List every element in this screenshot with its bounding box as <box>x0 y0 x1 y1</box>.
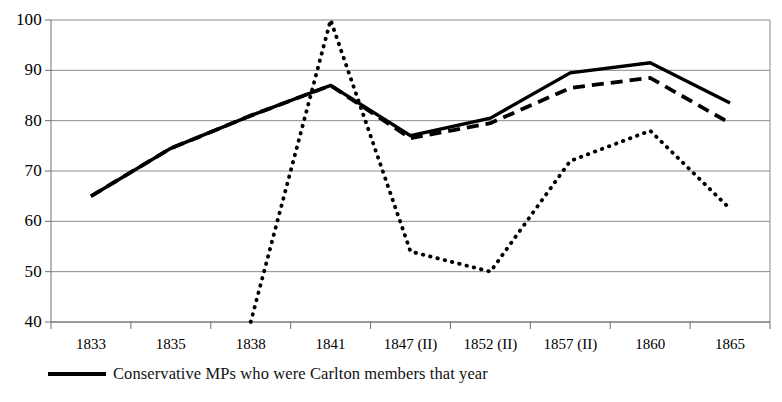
series-line-solid <box>91 63 730 196</box>
chart-container: 405060708090100 18331835183818411847 (II… <box>0 0 782 402</box>
y-axis-ticks <box>45 20 51 322</box>
y-axis-label: 40 <box>0 312 42 332</box>
y-axis-label: 80 <box>0 111 42 131</box>
x-axis-ticks <box>51 322 770 329</box>
y-axis-label: 70 <box>0 161 42 181</box>
y-axis-label: 50 <box>0 262 42 282</box>
y-axis-label: 90 <box>0 60 42 80</box>
gridlines <box>51 20 770 322</box>
chart-legend: Conservative MPs who were Carlton member… <box>48 364 488 384</box>
y-axis-label: 60 <box>0 211 42 231</box>
legend-line-swatch-solid <box>48 372 106 376</box>
legend-label-conservative-mps: Conservative MPs who were Carlton member… <box>113 364 488 384</box>
x-axis-label: 1865 <box>670 336 782 353</box>
y-axis-label: 100 <box>0 10 42 30</box>
